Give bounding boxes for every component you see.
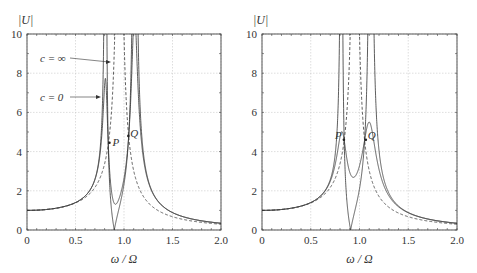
y-axis-label: |U| — [18, 13, 33, 27]
x-tick-label: 1.5 — [401, 234, 415, 246]
y-tick-label: 8 — [17, 67, 23, 79]
axes-frame — [262, 34, 457, 230]
y-tick-label: 8 — [252, 67, 258, 79]
x-tick-label: 1.5 — [166, 234, 180, 246]
label-P: P — [334, 129, 342, 141]
point-Q — [365, 139, 368, 142]
grid — [262, 34, 457, 230]
x-tick-label: 1.0 — [353, 234, 367, 246]
x-axis-label: ω / Ω — [111, 252, 138, 266]
y-tick-label: 0 — [17, 224, 23, 236]
label-Q: Q — [368, 129, 376, 141]
y-tick-label: 4 — [252, 146, 258, 158]
label-Q: Q — [130, 127, 138, 139]
x-tick-label: 0.5 — [69, 234, 83, 246]
y-tick-label: 0 — [252, 224, 258, 236]
y-axis-label: |U| — [253, 13, 268, 27]
y-tick-label: 10 — [11, 28, 23, 40]
y-tick-label: 2 — [252, 185, 258, 197]
figure: 00.51.01.52.00246810ω / Ω|U|c = ∞c = 0PQ… — [0, 0, 477, 273]
y-tick-label: 2 — [17, 185, 23, 197]
y-tick-label: 4 — [17, 146, 23, 158]
x-tick-label: 0.5 — [304, 234, 318, 246]
annotation-c-zero: c = 0 — [40, 91, 64, 103]
x-tick-label: 2.0 — [450, 234, 464, 246]
x-tick-label: 0 — [24, 234, 30, 246]
left-plot: 00.51.01.52.00246810ω / Ω|U|c = ∞c = 0PQ — [11, 0, 228, 266]
point-P — [108, 141, 111, 144]
x-axis-label: ω / Ω — [346, 252, 373, 266]
x-tick-label: 2.0 — [214, 234, 228, 246]
label-P: P — [111, 136, 119, 148]
x-tick-label: 1.0 — [117, 234, 131, 246]
y-tick-label: 6 — [17, 106, 23, 118]
y-tick-label: 10 — [246, 28, 258, 40]
right-plot: 00.51.01.52.00246810ω / Ω|U|PQ — [246, 0, 464, 266]
point-Q — [127, 135, 130, 138]
annotation-c-infinity: c = ∞ — [40, 52, 66, 64]
point-P — [343, 139, 346, 142]
y-tick-label: 6 — [252, 106, 258, 118]
x-tick-label: 0 — [259, 234, 265, 246]
